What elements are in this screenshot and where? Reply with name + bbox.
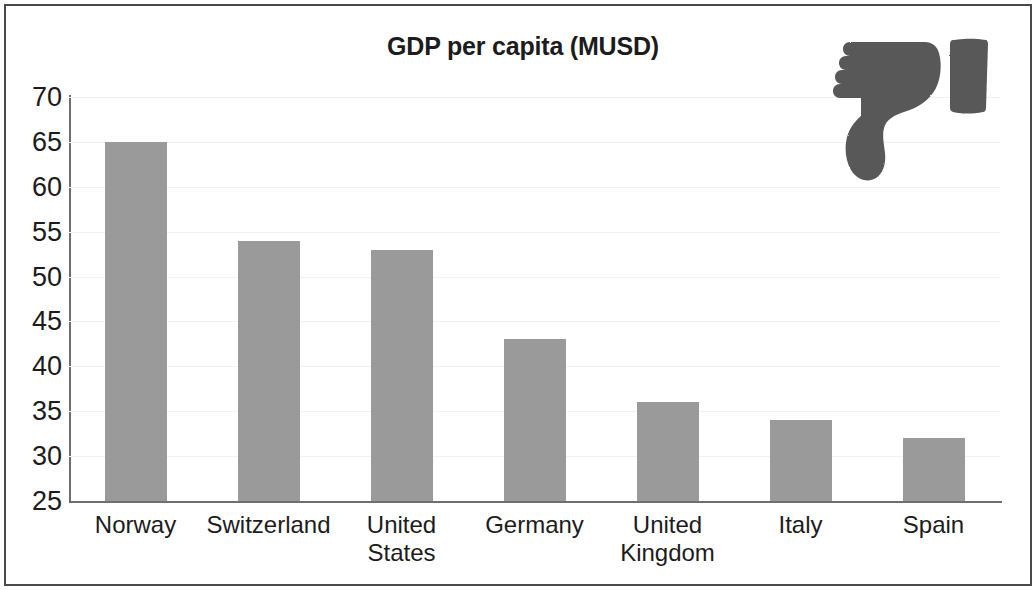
y-axis-tick-label: 70 [8,84,62,111]
bar-norway[interactable] [105,142,167,501]
y-axis-tick-label: 65 [8,129,62,156]
bar-united-kingdom[interactable] [637,402,699,501]
x-axis-label-germany: Germany [468,511,601,539]
y-axis-tick-label: 45 [8,308,62,335]
bar-slot [69,97,202,501]
bar-slot [468,97,601,501]
bar-switzerland[interactable] [238,241,300,501]
thumbs-down-icon [826,20,1006,200]
y-axis-tick-label: 35 [8,398,62,425]
bar-slot [601,97,734,501]
bar-spain[interactable] [903,438,965,501]
chart-page: GDP per capita (MUSD) 706560555045403530… [0,0,1036,590]
x-axis-line [69,501,1002,503]
x-axis-label-norway: Norway [69,511,202,539]
y-axis-tick-label: 60 [8,174,62,201]
y-axis-tick-label: 25 [8,488,62,515]
y-axis-tick-label: 40 [8,353,62,380]
bar-united-states[interactable] [371,250,433,501]
x-axis-label-switzerland: Switzerland [202,511,335,539]
y-axis-tick-label: 50 [8,264,62,291]
y-axis-tick-label: 30 [8,443,62,470]
x-axis-label-italy: Italy [734,511,867,539]
bar-slot [335,97,468,501]
x-axis-label-united-states: United States [335,511,468,567]
bar-italy[interactable] [770,420,832,501]
x-axis-label-united-kingdom: United Kingdom [601,511,734,567]
y-axis-tick-labels: 70656055504540353025 [4,0,62,590]
y-axis-tick-label: 55 [8,219,62,246]
bar-slot [202,97,335,501]
bar-germany[interactable] [504,339,566,501]
x-axis-label-spain: Spain [867,511,1000,539]
